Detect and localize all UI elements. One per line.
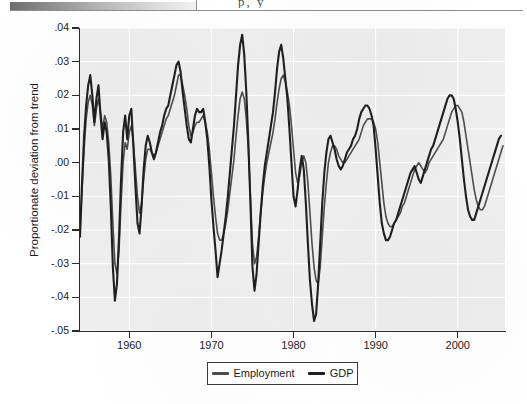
- legend-item-employment: Employment: [212, 368, 295, 379]
- legend-item-gdp: GDP: [308, 368, 354, 379]
- x-tick-label: 1980: [264, 339, 324, 351]
- y-tick-label: -.02: [25, 223, 69, 235]
- scan-artifact-strip: p, y: [0, 0, 527, 14]
- x-tick-label: 1960: [99, 339, 159, 351]
- y-tick-label: .03: [25, 55, 69, 67]
- y-tick: [72, 95, 79, 96]
- series-line-gdp: [80, 35, 501, 321]
- y-tick-label: .01: [25, 122, 69, 134]
- business-cycle-chart: Proportionate deviation from trend .04.0…: [0, 14, 527, 404]
- legend-label-gdp: GDP: [330, 368, 354, 379]
- plot-svg: [80, 28, 505, 331]
- plot-area: [80, 28, 505, 331]
- scan-text-fragment: p, y: [238, 0, 278, 8]
- legend-swatch-employment: [212, 372, 229, 375]
- scan-horizontal-rule: [10, 10, 523, 11]
- y-tick: [72, 128, 79, 129]
- chart-legend: Employment GDP: [207, 362, 358, 385]
- y-tick-label: .00: [25, 156, 69, 168]
- series-lines: [80, 35, 503, 321]
- y-tick: [72, 196, 79, 197]
- y-tick-label: .02: [25, 88, 69, 100]
- y-tick-label: -.04: [25, 290, 69, 302]
- x-tick-label: 2000: [428, 339, 488, 351]
- y-tick: [72, 229, 79, 230]
- y-tick: [72, 330, 79, 331]
- figure-page: p, y Proportionate deviation from trend …: [0, 0, 527, 404]
- y-tick: [72, 27, 79, 28]
- scan-gradient-bar: [10, 2, 196, 10]
- y-tick-label: -.03: [25, 257, 69, 269]
- x-tick: [129, 332, 130, 338]
- y-tick: [72, 162, 79, 163]
- legend-label-employment: Employment: [234, 368, 295, 379]
- y-tick: [72, 297, 79, 298]
- x-tick: [457, 332, 458, 338]
- y-axis-line: [79, 28, 80, 332]
- y-tick-label: -.05: [25, 324, 69, 336]
- x-tick: [211, 332, 212, 338]
- y-tick: [72, 61, 79, 62]
- y-tick-label: .04: [25, 21, 69, 33]
- y-tick-label: -.01: [25, 189, 69, 201]
- x-tick-label: 1970: [181, 339, 241, 351]
- x-tick: [293, 332, 294, 338]
- legend-swatch-gdp: [308, 372, 325, 375]
- x-tick: [375, 332, 376, 338]
- y-tick: [72, 263, 79, 264]
- x-tick-label: 1990: [346, 339, 406, 351]
